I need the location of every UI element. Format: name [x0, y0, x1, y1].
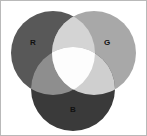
venn-label-G: G — [104, 38, 110, 47]
venn-label-R: R — [30, 38, 36, 47]
venn-diagram-canvas: R G B — [0, 0, 147, 136]
venn-label-B: B — [70, 105, 76, 114]
venn-figure-frame: R G B — [0, 0, 147, 136]
